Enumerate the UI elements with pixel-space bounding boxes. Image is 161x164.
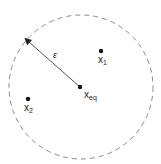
label-x1: x1 [98, 54, 107, 66]
point-x1 [99, 49, 103, 53]
point-x-eq [78, 85, 82, 89]
epsilon-label: ε [53, 50, 58, 60]
label-x2: x2 [24, 102, 33, 114]
radius-arrow [29, 42, 80, 87]
point-x2 [26, 97, 30, 101]
equilibrium-neighborhood-diagram: ε xeq x1 x2 [0, 0, 161, 164]
label-x-eq: xeq [84, 89, 97, 102]
